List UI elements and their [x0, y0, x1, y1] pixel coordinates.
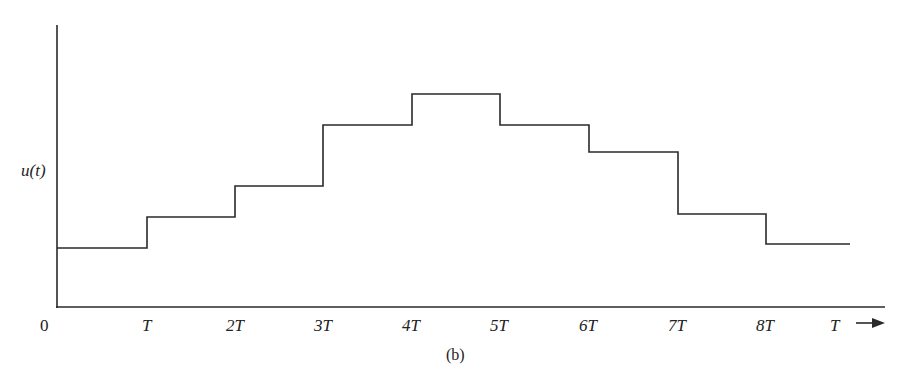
x-axis-label: T	[830, 316, 839, 336]
figure-caption: (b)	[446, 346, 465, 364]
tick-label-T: T	[142, 316, 151, 336]
y-axis-label: u(t)	[21, 161, 46, 181]
x-arrow	[856, 318, 885, 328]
y-axis-label-text: u(t)	[21, 161, 46, 180]
step-chart	[0, 0, 911, 389]
tick-label-5T: 5T	[490, 316, 508, 336]
origin-label: 0	[40, 316, 49, 336]
tick-label-4T: 4T	[402, 316, 420, 336]
tick-label-7T: 7T	[668, 316, 686, 336]
tick-label-6T: 6T	[579, 316, 597, 336]
tick-label-3T: 3T	[314, 316, 332, 336]
tick-label-8T: 8T	[756, 316, 774, 336]
tick-label-2T: 2T	[226, 316, 244, 336]
step-series	[57, 94, 850, 248]
